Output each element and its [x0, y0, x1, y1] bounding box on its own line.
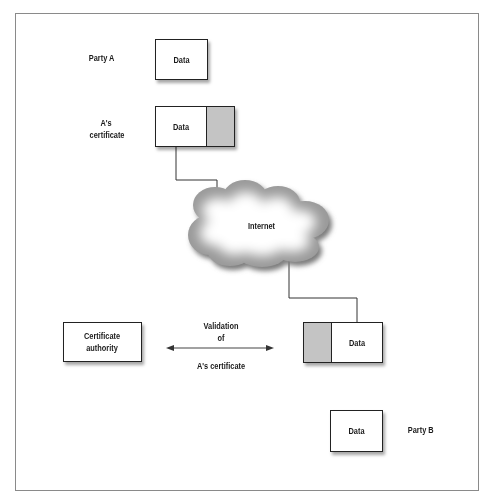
signature-block: [206, 107, 234, 146]
a-certificate-label-line2: certificate: [90, 129, 123, 141]
ca-label-line1: Certificate: [84, 330, 120, 342]
signature-block: [304, 323, 332, 362]
party-b-label: Party B: [408, 424, 434, 436]
a-certificate-box: Data: [155, 106, 235, 147]
received-certificate-box: Data: [303, 322, 383, 363]
validation-line3: A's certificate: [192, 360, 249, 372]
certificate-authority-box: Certificate authority: [63, 322, 142, 362]
internet-label: Internet: [248, 221, 275, 231]
party-a-label: Party A: [89, 52, 115, 64]
certificate-authority-label: Certificate authority: [84, 323, 120, 361]
validation-arrow-icon: [166, 345, 274, 351]
a-certificate-label: A's certificate: [90, 117, 123, 141]
connector-internet-to-b: [289, 258, 357, 323]
validation-line1: Validation: [201, 320, 242, 332]
data-cell: Data: [337, 323, 378, 362]
ca-label-line2: authority: [87, 342, 119, 354]
data-cell: Data: [336, 411, 378, 451]
party-a-data-box: Data: [155, 39, 208, 80]
party-b-data-box: Data: [330, 410, 383, 452]
data-cell: Data: [161, 40, 203, 79]
a-certificate-label-line1: A's: [90, 117, 123, 129]
data-cell: Data: [161, 107, 202, 146]
validation-line2: of: [201, 332, 242, 344]
connector-a-to-internet: [176, 147, 217, 192]
